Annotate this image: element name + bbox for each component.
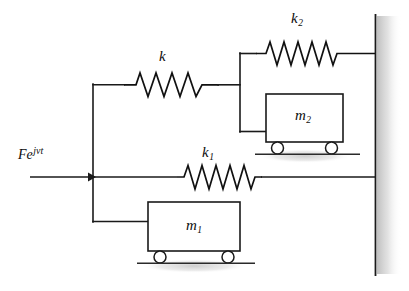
m1-wheel-left — [154, 251, 166, 263]
force-label-exponent: jνt — [33, 145, 43, 156]
force-label: Fejνt — [18, 148, 43, 162]
spring-k1-subscript: 1 — [209, 152, 214, 162]
mass-m2-symbol: m — [295, 107, 306, 123]
spring-k2-subscript: 2 — [298, 18, 303, 28]
force-label-base: Fe — [18, 147, 33, 162]
mass-m1 — [137, 202, 255, 273]
mass-m1-symbol: m — [186, 217, 197, 233]
wall-shadow-hatching — [377, 16, 401, 274]
spring-k2 — [256, 42, 375, 65]
spring-k1-symbol: k — [202, 144, 209, 160]
lower-branch — [93, 166, 375, 190]
force-input-arrow — [30, 173, 96, 182]
spring-k2-label: k2 — [291, 11, 302, 26]
spring-k1-coil — [177, 166, 262, 190]
spring-k1-label: k1 — [202, 145, 213, 160]
spring-k — [124, 73, 219, 97]
mass-m2-subscript: 2 — [306, 115, 311, 125]
fixed-wall — [376, 14, 402, 276]
spring-k-label: k — [159, 49, 166, 64]
mass-m2-label: m2 — [295, 108, 311, 123]
mass-m1-label: m1 — [186, 218, 202, 233]
spring-k-coil — [124, 73, 219, 97]
m1-wheel-right — [222, 251, 234, 263]
spring-k2-symbol: k — [291, 10, 298, 26]
left-vertical-bus — [93, 84, 150, 222]
mass-m1-subscript: 1 — [197, 225, 202, 235]
m2-wheel-left — [272, 142, 284, 154]
k-junction-bus — [218, 53, 267, 132]
m2-wheel-right — [326, 142, 338, 154]
spring-k2-coil — [256, 42, 375, 65]
spring-mass-diagram: Fejνt k k1 k2 m1 m2 — [0, 0, 409, 291]
spring-k-symbol: k — [159, 48, 166, 64]
mass-m2 — [255, 94, 360, 163]
